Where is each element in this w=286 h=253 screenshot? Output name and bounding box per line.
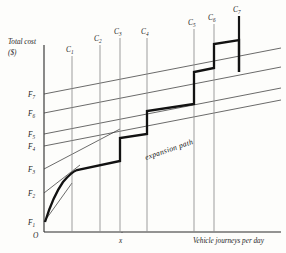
f5-label: F5 [27,130,36,140]
c4-label: C4 [141,27,149,37]
y-axis-label-line2: ($) [8,49,17,57]
cost-line-f7 [44,48,281,94]
c6-label: C6 [208,13,216,23]
f3-label: F3 [27,165,36,175]
cost-line-f6 [44,67,281,113]
c1-label: C1 [66,45,74,55]
x-tick-label: x [118,237,123,245]
c2-label: C2 [94,34,102,44]
y-axis-label-line1: Total cost [8,38,37,46]
figure-container: Total cost ($) Vehicle journeys per day … [0,0,286,253]
f4-label: F4 [27,142,36,152]
cost-line-f4 [44,100,281,146]
expansion-path-label: expansion path [144,137,195,162]
f2-label: F2 [27,189,36,199]
expansion-path-curve [45,40,239,222]
total-cost-chart: Total cost ($) Vehicle journeys per day … [0,0,286,253]
f6-label: F6 [27,109,36,119]
cost-line-f2 [44,165,80,193]
f7-label: F7 [27,90,36,100]
c3-label: C3 [114,27,122,37]
c5-label: C5 [188,18,196,28]
f-labels-group: F1 F2 F3 F4 F5 F6 F7 [27,90,36,228]
f1-label: F1 [27,218,36,228]
cost-lines-group [44,48,281,222]
x-axis-label: Vehicle journeys per day [193,237,265,245]
c7-label: C7 [233,5,241,15]
origin-label: O [33,231,39,240]
cost-line-f5 [44,88,281,134]
